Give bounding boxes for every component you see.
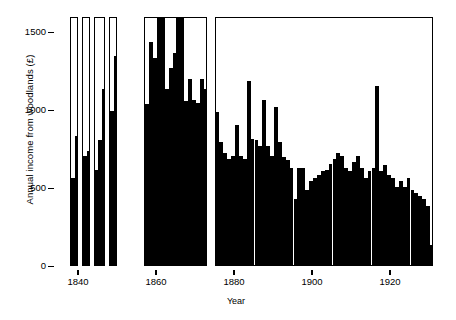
panel-4 [109, 17, 117, 266]
panel-1 [70, 17, 78, 266]
panel-2 [82, 17, 90, 266]
panel-8 [215, 17, 433, 266]
x-tick-mark [389, 270, 390, 275]
x-tick-1900: 1900 [292, 270, 332, 287]
x-tick-mark [77, 270, 78, 275]
x-tick-mark [311, 270, 312, 275]
panel-5 [144, 17, 164, 266]
x-tick-mark [155, 270, 156, 275]
x-tick-label: 1860 [136, 276, 176, 287]
x-tick-1840: 1840 [58, 270, 98, 287]
bar-1849 [114, 56, 117, 265]
bar-1839 [75, 136, 78, 265]
panel-6 [164, 17, 184, 266]
x-tick-1920: 1920 [370, 270, 410, 287]
bar-1842 [87, 151, 90, 265]
x-axis-label: Year [214, 296, 258, 306]
x-tick-label: 1840 [58, 276, 98, 287]
x-tick-label: 1920 [370, 276, 410, 287]
x-tick-1860: 1860 [136, 270, 176, 287]
bar-1930 [430, 245, 433, 265]
chart-figure: Annual income from woodlands (£) 0500100… [0, 0, 456, 320]
panel-3 [94, 17, 106, 266]
bar-1846 [102, 89, 105, 265]
x-tick-1880: 1880 [214, 270, 254, 287]
x-tick-mark [233, 270, 234, 275]
x-tick-label: 1900 [292, 276, 332, 287]
bar-1872 [204, 89, 207, 265]
x-tick-label: 1880 [214, 276, 254, 287]
panel-7 [183, 17, 206, 266]
